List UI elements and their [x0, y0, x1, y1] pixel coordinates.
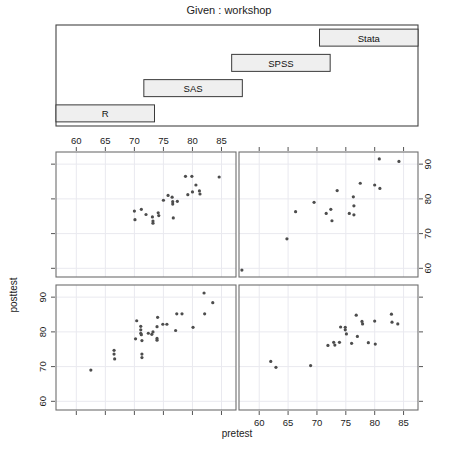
strip-level-label: R [102, 108, 109, 119]
data-point [191, 326, 194, 329]
data-point [332, 341, 335, 344]
data-point [350, 342, 353, 345]
given-workshop-strip: RSASSPSSStata [56, 25, 418, 126]
data-point [139, 325, 142, 328]
panel-bottom-right [239, 285, 418, 410]
panel-frame [56, 285, 236, 410]
data-point [240, 268, 243, 271]
axis-tick-label-bottom: 85 [398, 417, 409, 428]
strip-level-bar: R [56, 105, 155, 122]
data-point [352, 204, 355, 207]
data-point [355, 314, 358, 317]
data-point [374, 342, 377, 345]
axis-tick-label-top: 60 [71, 135, 82, 146]
data-point [140, 339, 143, 342]
data-point [155, 339, 158, 342]
data-point [151, 215, 154, 218]
data-point [139, 328, 142, 331]
data-point [344, 328, 347, 331]
data-point [269, 360, 272, 363]
axis-tick-label-left: 60 [37, 396, 48, 407]
axis-tick-label-top: 65 [100, 135, 111, 146]
data-point [309, 364, 312, 367]
data-point [198, 189, 201, 192]
data-point [378, 157, 381, 160]
axis-tick-label-right: 70 [422, 228, 433, 239]
data-point [176, 200, 179, 203]
data-point [133, 218, 136, 221]
y-axis-title: posttest [8, 277, 19, 312]
panel-top-right [239, 152, 418, 277]
data-point [274, 366, 277, 369]
axis-tick-label-bottom: 70 [312, 417, 323, 428]
data-point [312, 201, 315, 204]
data-point [397, 160, 400, 163]
strip-level-label: SPSS [268, 58, 293, 69]
data-point [285, 237, 288, 240]
data-point [218, 175, 221, 178]
data-point [333, 343, 336, 346]
data-point [171, 202, 174, 205]
data-point [359, 182, 362, 185]
axis-tick-label-top: 80 [187, 135, 198, 146]
panel-bottom-left [56, 285, 236, 410]
data-point [140, 333, 143, 336]
data-point [151, 330, 154, 333]
plot-canvas: Given : workshopRSASSPSSStata60657075808… [0, 0, 458, 451]
data-point [348, 212, 351, 215]
axis-tick-label-left: 90 [37, 292, 48, 303]
x-axis-title: pretest [222, 428, 253, 439]
axis-tick-label-right: 60 [422, 263, 433, 274]
data-point [135, 319, 138, 322]
data-point [156, 316, 159, 319]
axis-tick-label-top: 75 [158, 135, 169, 146]
strip-level-bar: Stata [320, 29, 419, 46]
axis-tick-label-top: 85 [216, 135, 227, 146]
data-point [198, 192, 201, 195]
data-point [171, 196, 174, 199]
data-point [175, 312, 178, 315]
data-point [338, 341, 341, 344]
strip-level-label: SAS [184, 83, 203, 94]
data-point [390, 313, 393, 316]
axis-tick-label-bottom: 65 [283, 417, 294, 428]
data-point [112, 353, 115, 356]
data-point [373, 183, 376, 186]
data-point [326, 344, 329, 347]
data-point [140, 356, 143, 359]
data-point [180, 312, 183, 315]
data-point [186, 193, 189, 196]
data-point [161, 323, 164, 326]
axis-tick-label-left: 70 [37, 361, 48, 372]
axis-tick-label-right: 80 [422, 194, 433, 205]
plot-title: Given : workshop [187, 4, 272, 16]
data-point [352, 195, 355, 198]
data-point [113, 357, 116, 360]
data-point [202, 291, 205, 294]
data-point [112, 349, 115, 352]
axis-tick-label-right: 90 [422, 159, 433, 170]
data-point [336, 189, 339, 192]
panel-frame [239, 152, 418, 277]
strip-level-bar: SAS [144, 80, 243, 97]
data-point [155, 325, 158, 328]
data-point [211, 301, 214, 304]
data-point [166, 194, 169, 197]
data-point [133, 209, 136, 212]
data-point [157, 214, 160, 217]
data-point [157, 211, 160, 214]
data-point [330, 219, 333, 222]
data-point [329, 208, 332, 211]
data-point [339, 325, 342, 328]
data-point [352, 213, 355, 216]
data-point [174, 329, 177, 332]
data-point [373, 320, 376, 323]
data-point [194, 183, 197, 186]
data-point [356, 335, 359, 338]
data-point [367, 341, 370, 344]
data-point [162, 199, 165, 202]
data-point [190, 175, 193, 178]
data-point [147, 332, 150, 335]
data-point [172, 216, 175, 219]
data-point [325, 212, 328, 215]
